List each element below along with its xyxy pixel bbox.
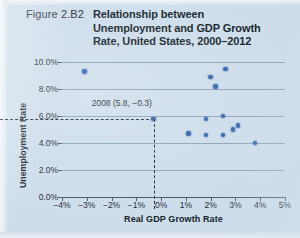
y-axis-tick-label: 8.0% xyxy=(12,84,58,94)
page-edge-top xyxy=(0,0,300,5)
y-axis-tick-label: 10.0% xyxy=(12,57,58,67)
data-point xyxy=(236,123,240,127)
annotation-2008-label: 2008 (5.8, −0.3) xyxy=(92,98,152,108)
data-point xyxy=(221,133,225,137)
y-axis-labels: 0.0%2.0%4.0%6.0%8.0%10.0% xyxy=(10,62,58,197)
data-point-2008 xyxy=(151,117,155,121)
y-axis-tick xyxy=(58,62,62,63)
x-axis-title: Real GDP Growth Rate xyxy=(62,214,285,224)
data-point xyxy=(221,114,225,118)
gridline-y xyxy=(62,116,285,117)
data-point xyxy=(231,127,235,131)
figure-number: Figure 2.B2 xyxy=(26,8,84,22)
y-axis-tick-label: 6.0% xyxy=(12,111,58,121)
gridline-y xyxy=(62,143,285,144)
page-edge-bottom xyxy=(0,232,300,238)
gridline-y xyxy=(62,62,285,63)
data-point xyxy=(208,75,212,79)
data-point xyxy=(223,67,227,71)
figure-title-line-1: Relationship between xyxy=(93,8,261,22)
x-axis-labels: −4%−3%−2%−1%0%1%2%3%4%5% xyxy=(62,200,285,212)
figure-title-line-3: Rate, United States, 2000–2012 xyxy=(93,35,261,49)
x-axis-tick-label: 5% xyxy=(270,200,300,210)
data-point xyxy=(213,84,217,88)
figure-header: Figure 2.B2 Relationship between Unemplo… xyxy=(26,8,290,49)
figure-title-line-2: Unemployment and GDP Growth xyxy=(93,22,261,36)
y-axis-tick xyxy=(58,89,62,90)
plot-area: 2008 (5.8, −0.3) xyxy=(62,62,285,197)
y-axis-tick-label: 4.0% xyxy=(12,138,58,148)
y-axis-tick-label: 2.0% xyxy=(12,165,58,175)
annotation-guide-vertical xyxy=(154,119,155,209)
data-point xyxy=(253,141,257,145)
figure-title: Relationship between Unemployment and GD… xyxy=(93,8,261,49)
figure-panel: Figure 2.B2 Relationship between Unemplo… xyxy=(0,0,300,238)
y-axis-tick xyxy=(58,116,62,117)
gridline-y xyxy=(62,89,285,90)
gridline-y xyxy=(62,170,285,171)
data-point xyxy=(186,131,190,135)
y-axis-tick xyxy=(58,170,62,171)
data-point xyxy=(204,133,208,137)
x-axis-line xyxy=(62,197,285,198)
y-axis-tick xyxy=(58,143,62,144)
data-point xyxy=(82,69,86,73)
data-point xyxy=(204,117,208,121)
